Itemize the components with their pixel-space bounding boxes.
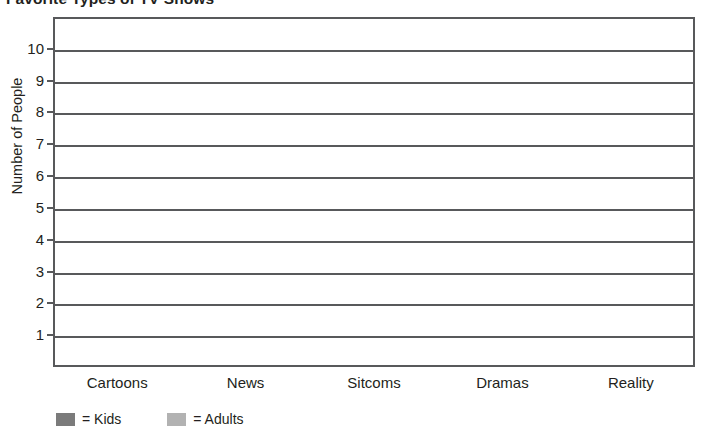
legend-entry: = Kids xyxy=(56,411,121,427)
gridline xyxy=(55,82,693,84)
x-tick-label: News xyxy=(181,372,309,396)
gridline xyxy=(55,209,693,211)
bar-chart-figure: Favorite Types of TV Shows Number of Peo… xyxy=(0,0,701,431)
chart-title: Favorite Types of TV Shows xyxy=(6,0,214,8)
adults-swatch xyxy=(167,413,186,426)
gridline xyxy=(55,113,693,115)
gridline xyxy=(55,50,693,52)
y-tick-label: 6 xyxy=(0,168,44,183)
gridline xyxy=(55,241,693,243)
gridline xyxy=(55,177,693,179)
y-tick-label: 7 xyxy=(0,136,44,151)
y-tick-label: 10 xyxy=(0,41,44,56)
legend-entry: = Adults xyxy=(167,411,243,427)
chart-legend: = Kids= Adults xyxy=(56,411,290,427)
x-axis-tick-group: CartoonsNewsSitcomsDramasReality xyxy=(53,372,695,396)
y-tick-label: 5 xyxy=(0,200,44,215)
gridline xyxy=(55,336,693,338)
legend-label: = Adults xyxy=(193,411,243,427)
y-tick-label: 9 xyxy=(0,73,44,88)
y-tick-label: 1 xyxy=(0,327,44,342)
y-tick-label: 3 xyxy=(0,264,44,279)
x-tick-label: Cartoons xyxy=(53,372,181,396)
y-tick-label: 2 xyxy=(0,295,44,310)
gridline xyxy=(55,273,693,275)
gridline xyxy=(55,145,693,147)
x-tick-label: Dramas xyxy=(438,372,566,396)
kids-swatch xyxy=(56,413,75,426)
x-tick-label: Sitcoms xyxy=(310,372,438,396)
gridline xyxy=(55,304,693,306)
plot-area xyxy=(53,17,695,367)
legend-label: = Kids xyxy=(82,411,121,427)
x-tick-label: Reality xyxy=(567,372,695,396)
y-tick-label: 4 xyxy=(0,232,44,247)
y-tick-label: 8 xyxy=(0,104,44,119)
